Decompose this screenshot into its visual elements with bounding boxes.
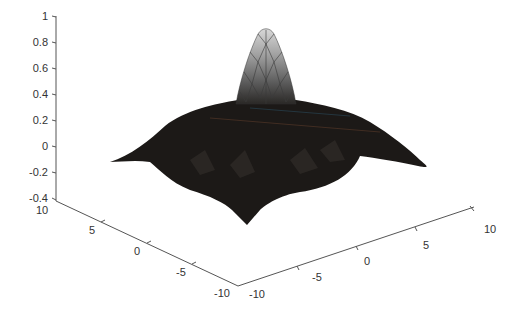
surface-plot: 1 0.8 0.6 0.4 0.2 0 -0.2 -0.4 10 5 0 -5 … [0,0,526,311]
left-axis-tick-labels: 10 5 0 -5 -10 [36,204,230,299]
z-tick-label: 0.2 [33,114,48,126]
z-tick-label: 1 [42,10,48,22]
right-axis-tick-label: 5 [423,239,429,251]
right-axis-tick-labels: -10 -5 0 5 10 [249,223,496,300]
right-axis-tick-label: 0 [364,255,370,267]
z-tick-label: 0 [42,140,48,152]
z-tick-label: 0.4 [33,88,48,100]
left-axis-tick-label: -5 [176,266,186,278]
z-tick-label: -0.2 [29,166,48,178]
z-tick-label: -0.4 [29,192,48,204]
left-axis-tick-label: 10 [36,204,48,216]
right-axis-tick-label: -10 [249,288,265,300]
right-axis-tick-label: -5 [312,271,322,283]
z-tick-label: 0.8 [33,36,48,48]
surface-peak [236,29,296,104]
z-tick-label: 0.6 [33,62,48,74]
left-axis-tick-label: 0 [134,245,140,257]
surface-base [110,100,427,225]
right-axis-tick-label: 10 [484,223,496,235]
left-axis-tick-label: 5 [89,224,95,236]
left-axis-tick-label: -10 [214,287,230,299]
left-axis-line [56,201,238,286]
z-tick-labels: 1 0.8 0.6 0.4 0.2 0 -0.2 -0.4 [29,10,48,204]
